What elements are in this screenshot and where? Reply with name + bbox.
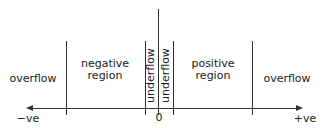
negative-region-line2: region — [72, 70, 138, 82]
underflow-right-label: underflow — [160, 48, 172, 103]
horizontal-axis — [30, 108, 298, 109]
boundary-positive-overflow — [252, 41, 253, 115]
negative-region-label: negative region — [72, 58, 138, 82]
positive-region-label: positive region — [180, 58, 246, 82]
boundary-negative-overflow — [66, 41, 67, 115]
right-overflow-label: overflow — [258, 73, 316, 85]
arrow-left-icon — [26, 105, 33, 111]
positive-region-line2: region — [180, 70, 246, 82]
negative-direction-label: −ve — [16, 113, 40, 125]
underflow-left-label: underflow — [145, 48, 157, 103]
left-overflow-label: overflow — [4, 73, 62, 85]
number-line-diagram: overflow negative region underflow under… — [0, 0, 329, 128]
boundary-underflow-right — [173, 41, 174, 115]
positive-direction-label: +ve — [292, 113, 318, 125]
arrow-right-icon — [296, 105, 303, 111]
zero-label: 0 — [153, 112, 165, 124]
